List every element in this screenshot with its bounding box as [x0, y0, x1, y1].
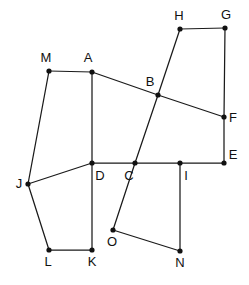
- segment-b-f: [158, 95, 224, 117]
- segment-j-d: [28, 163, 92, 184]
- vertex-label-a: A: [84, 50, 93, 65]
- vertex-label-e: E: [229, 147, 238, 162]
- geometry-figure-svg: ABCDEFGHIJKLMNO: [0, 0, 249, 285]
- segment-h-b: [158, 29, 180, 95]
- geometry-figure-canvas: ABCDEFGHIJKLMNO: [0, 0, 249, 285]
- segment-b-c: [135, 95, 158, 163]
- vertex-point-m: [46, 68, 51, 73]
- vertex-label-k: K: [88, 254, 97, 269]
- vertex-point-l: [46, 247, 51, 252]
- vertex-point-c: [132, 160, 137, 165]
- segment-m-a: [49, 71, 92, 72]
- vertex-labels-group: ABCDEFGHIJKLMNO: [16, 7, 238, 270]
- vertex-point-f: [221, 114, 226, 119]
- vertex-label-l: L: [44, 254, 51, 269]
- vertex-point-k: [89, 247, 94, 252]
- vertex-point-i: [177, 160, 182, 165]
- vertex-point-d: [89, 160, 94, 165]
- vertex-point-a: [89, 69, 94, 74]
- segment-j-l: [28, 184, 49, 250]
- vertex-label-d: D: [95, 168, 104, 183]
- vertex-label-i: I: [184, 168, 188, 183]
- segment-f-g: [224, 28, 225, 117]
- vertex-point-b: [155, 92, 160, 97]
- vertex-label-g: G: [221, 7, 231, 22]
- vertex-label-n: N: [175, 255, 184, 270]
- segments-group: [28, 28, 225, 251]
- segment-g-h: [180, 28, 225, 29]
- vertex-label-c: C: [124, 168, 133, 183]
- vertex-point-n: [177, 248, 182, 253]
- segment-o-n: [113, 230, 180, 251]
- vertex-point-h: [177, 26, 182, 31]
- vertex-label-o: O: [107, 234, 117, 249]
- vertex-label-m: M: [41, 50, 52, 65]
- vertex-label-h: H: [174, 8, 183, 23]
- vertex-label-j: J: [16, 176, 23, 191]
- vertex-point-g: [222, 25, 227, 30]
- vertex-label-b: B: [146, 74, 155, 89]
- vertex-point-j: [25, 181, 30, 186]
- vertex-point-o: [110, 227, 115, 232]
- vertex-label-f: F: [229, 110, 237, 125]
- vertex-point-e: [221, 160, 226, 165]
- segment-m-j: [28, 71, 49, 184]
- vertices-group: [25, 25, 227, 253]
